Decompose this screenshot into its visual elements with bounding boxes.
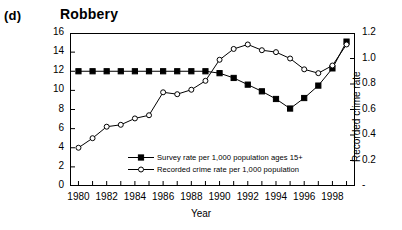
panel-label: (d) xyxy=(4,8,21,23)
data-point-open-circle xyxy=(118,122,123,127)
data-point-open-circle xyxy=(344,42,349,47)
data-point-open-circle xyxy=(147,113,152,118)
x-axis-title: Year xyxy=(0,208,402,219)
data-point-filled-square xyxy=(76,69,81,74)
y-tick-label-left: 12 xyxy=(38,64,64,75)
data-point-open-circle xyxy=(217,57,222,62)
data-point-filled-square xyxy=(146,69,151,74)
data-point-open-circle xyxy=(259,48,264,53)
data-point-open-circle xyxy=(132,116,137,121)
data-point-open-circle xyxy=(273,50,278,55)
y-tick-label-right: 0.2 xyxy=(362,154,392,165)
data-point-filled-square xyxy=(217,71,222,76)
y-tick-label-left: 2 xyxy=(38,160,64,171)
legend-label: Survey rate per 1,000 population ages 15… xyxy=(157,152,303,164)
data-point-filled-square xyxy=(302,95,307,100)
data-point-open-circle xyxy=(104,124,109,129)
y-tick-label-left: 16 xyxy=(38,26,64,37)
y-tick-label-right: 0.8 xyxy=(362,77,392,88)
data-point-open-circle xyxy=(175,92,180,97)
data-point-filled-square xyxy=(132,69,137,74)
legend-filled-square-icon xyxy=(128,153,154,162)
data-point-filled-square xyxy=(287,106,292,111)
data-point-open-circle xyxy=(189,87,194,92)
data-point-filled-square xyxy=(161,69,166,74)
chart-title: Robbery xyxy=(60,6,118,22)
data-point-filled-square xyxy=(231,75,236,80)
data-point-open-circle xyxy=(231,46,236,51)
data-point-open-circle xyxy=(90,136,95,141)
data-point-open-circle xyxy=(288,56,293,61)
y-tick-label-left: 14 xyxy=(38,45,64,56)
y-tick-label-right: 1.2 xyxy=(362,26,392,37)
y-tick-label-right: 1.0 xyxy=(362,52,392,63)
data-point-filled-square xyxy=(316,83,321,88)
y-axis-right-title: Recorded crime rate xyxy=(349,0,360,22)
data-point-open-circle xyxy=(302,67,307,72)
y-tick-label-left: 4 xyxy=(38,141,64,152)
data-point-filled-square xyxy=(245,82,250,87)
y-axis-left-title: Survey rate xyxy=(0,0,5,40)
y-tick-label-right: - xyxy=(362,179,392,190)
legend-item-0: Survey rate per 1,000 population ages 15… xyxy=(128,152,303,164)
data-point-filled-square xyxy=(259,89,264,94)
data-point-open-circle xyxy=(203,78,208,83)
y-tick-label-right: 0.6 xyxy=(362,103,392,114)
data-point-filled-square xyxy=(175,69,180,74)
legend-open-circle-icon xyxy=(128,165,154,174)
y-tick-label-right: 0.4 xyxy=(362,128,392,139)
y-tick-label-left: 0 xyxy=(38,179,64,190)
data-point-filled-square xyxy=(118,69,123,74)
legend-item-1: Recorded crime rate per 1,000 population xyxy=(128,164,303,176)
data-point-open-circle xyxy=(161,90,166,95)
x-tick-label: 1998 xyxy=(312,191,352,202)
data-point-open-circle xyxy=(245,42,250,47)
legend-label: Recorded crime rate per 1,000 population xyxy=(157,164,299,176)
data-point-filled-square xyxy=(189,69,194,74)
chart-figure: (d) Robbery Survey rate Recorded crime r… xyxy=(0,0,402,230)
data-point-filled-square xyxy=(90,69,95,74)
data-point-filled-square xyxy=(104,69,109,74)
data-point-open-circle xyxy=(330,63,335,68)
data-point-open-circle xyxy=(316,71,321,76)
data-point-open-circle xyxy=(76,145,81,150)
chart-legend: Survey rate per 1,000 population ages 15… xyxy=(128,152,303,176)
data-point-filled-square xyxy=(273,96,278,101)
data-point-filled-square xyxy=(203,69,208,74)
y-tick-label-left: 8 xyxy=(38,103,64,114)
y-tick-label-left: 10 xyxy=(38,83,64,94)
y-tick-label-left: 6 xyxy=(38,122,64,133)
